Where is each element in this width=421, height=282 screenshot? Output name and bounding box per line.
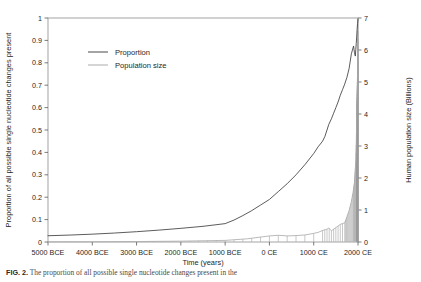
figure-caption: FIG. 2. The proportion of all possible s… xyxy=(6,268,415,277)
figure-caption-text: The proportion of all possible single nu… xyxy=(30,268,237,277)
x-tick-label: 3000 BCE xyxy=(120,248,153,257)
chart-canvas: 5000 BCE4000 BCE3000 BCE2000 BCE1000 BCE… xyxy=(0,0,421,282)
y-tick-label: 0.3 xyxy=(32,170,42,179)
legend-label-population-size: Population size xyxy=(115,61,167,70)
x-axis-title: Time (years) xyxy=(182,258,223,267)
y2-tick-label: 4 xyxy=(364,110,368,119)
x-tick-label: 1000 BCE xyxy=(209,248,242,257)
y2-tick-label: 6 xyxy=(364,46,368,55)
x-tick-label: 4000 BCE xyxy=(76,248,109,257)
y-tick-label: 0.9 xyxy=(32,36,42,45)
y-tick-label: 0.1 xyxy=(32,215,42,224)
y-tick-label: 0 xyxy=(38,238,42,247)
x-tick-label: 2000 BCE xyxy=(164,248,197,257)
y-tick-label: 0.7 xyxy=(32,81,42,90)
y2-tick-label: 1 xyxy=(364,206,368,215)
y2-tick-label: 7 xyxy=(364,14,368,23)
figure-panel: 5000 BCE4000 BCE3000 BCE2000 BCE1000 BCE… xyxy=(0,0,421,282)
y-axis-left-title: Proportion of all possible single nucleo… xyxy=(4,33,13,228)
y-tick-label: 0.6 xyxy=(32,103,42,112)
y2-tick-label: 2 xyxy=(364,174,368,183)
y2-tick-label: 5 xyxy=(364,78,368,87)
x-tick-label: 5000 BCE xyxy=(32,248,65,257)
x-tick-label: 0 CE xyxy=(261,248,277,257)
x-tick-label: 1000 CE xyxy=(300,248,328,257)
y-tick-label: 0.4 xyxy=(32,148,42,157)
y-tick-label: 0.8 xyxy=(32,58,42,67)
y2-tick-label: 3 xyxy=(364,142,368,151)
y-tick-label: 0.5 xyxy=(32,126,42,135)
x-tick-label: 2000 CE xyxy=(344,248,372,257)
y-tick-label: 1 xyxy=(38,14,42,23)
y-tick-label: 0.2 xyxy=(32,193,42,202)
y-axis-right-title: Human population size (Billions) xyxy=(404,77,413,183)
figure-caption-label: FIG. 2. xyxy=(6,268,28,277)
legend-label-proportion: Proportion xyxy=(115,48,150,57)
y2-tick-label: 0 xyxy=(364,238,368,247)
